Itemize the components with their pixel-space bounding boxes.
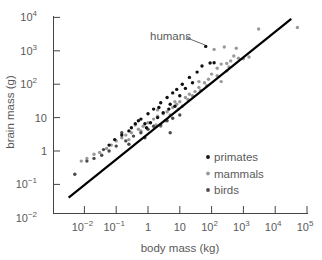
plot-area xyxy=(69,19,299,198)
tick-label: 102 xyxy=(201,219,218,233)
birds-point xyxy=(107,149,110,152)
primates-point xyxy=(181,83,184,86)
birds-point xyxy=(92,157,95,160)
tick-label: 10 xyxy=(174,221,186,233)
primates-point xyxy=(162,111,165,114)
birds-point xyxy=(178,113,181,116)
primates-point xyxy=(173,105,176,108)
primates-point xyxy=(169,103,172,106)
primates-point xyxy=(156,116,159,119)
data-points xyxy=(73,26,299,176)
mammals-point xyxy=(203,81,206,84)
legend-item-birds: birds xyxy=(206,184,239,196)
legend-item-mammals: mammals xyxy=(206,168,264,180)
primates-point xyxy=(184,87,187,90)
tick-label: 10−2 xyxy=(16,210,38,224)
y-axis-title: brain mass (g) xyxy=(4,75,16,149)
mammals-point xyxy=(197,80,200,83)
birds-point xyxy=(127,143,130,146)
primates-point xyxy=(127,129,130,132)
primates-point xyxy=(145,126,148,129)
mammals-point xyxy=(247,55,250,58)
birds-point xyxy=(115,144,118,147)
tick-label: 10 xyxy=(35,112,47,124)
legend-marker xyxy=(206,155,210,159)
primates-point xyxy=(178,94,181,97)
mammals-point xyxy=(235,47,238,50)
mammals-point xyxy=(229,59,232,62)
tick-label: 104 xyxy=(265,219,282,233)
primates-point xyxy=(146,112,149,115)
birds-point xyxy=(73,173,76,176)
tick-label: 10−1 xyxy=(104,219,126,233)
legend: primatesmammalsbirds xyxy=(206,151,264,196)
legend-label: primates xyxy=(214,151,258,163)
mammals-point xyxy=(178,100,181,103)
primates-point xyxy=(167,107,170,110)
primates-point xyxy=(143,122,146,125)
tick-label: 103 xyxy=(20,43,37,57)
x-axis-title: body mass (kg) xyxy=(141,242,220,254)
birds-point xyxy=(124,139,127,142)
primates-point xyxy=(149,121,152,124)
tick-label: 1 xyxy=(41,145,47,157)
mammals-point xyxy=(225,62,228,65)
primates-point xyxy=(159,101,162,104)
birds-point xyxy=(100,154,103,157)
mammals-point xyxy=(212,48,215,51)
birds-point xyxy=(169,131,172,134)
mammals-point xyxy=(197,86,200,89)
tick-label: 104 xyxy=(20,9,37,23)
mammals-point xyxy=(210,72,213,75)
mammals-point xyxy=(223,45,226,48)
mammals-point xyxy=(105,147,108,150)
mammals-point xyxy=(188,93,191,96)
legend-label: birds xyxy=(214,184,239,196)
primates-point xyxy=(157,106,160,109)
birds-point xyxy=(139,131,142,134)
mammals-point xyxy=(173,100,176,103)
primates-point xyxy=(152,107,155,110)
primates-point xyxy=(175,88,178,91)
primates-point xyxy=(171,91,174,94)
tick-label: 10−2 xyxy=(72,219,94,233)
legend-marker xyxy=(206,172,210,176)
x-axis-ticks: 10−210−1110102103104105 xyxy=(72,206,314,233)
primates-point xyxy=(107,143,110,146)
mammals-point xyxy=(80,159,83,162)
mammals-point xyxy=(257,27,260,30)
mammals-point xyxy=(296,26,299,29)
tick-label: 103 xyxy=(233,219,250,233)
primates-point xyxy=(137,119,140,122)
tick-label: 10−1 xyxy=(16,176,38,190)
mammals-point xyxy=(220,80,223,83)
mammals-point xyxy=(207,78,210,81)
primates-point xyxy=(134,122,137,125)
primates-point xyxy=(195,70,198,73)
primates-point xyxy=(212,61,215,64)
brain-body-mass-chart: 10−210−1110102103104 brain mass (g) 10−2… xyxy=(0,0,322,260)
mammals-point xyxy=(220,62,223,65)
primates-point xyxy=(165,96,168,99)
x-axis: 10−210−1110102103104105 body mass (kg) xyxy=(53,206,314,254)
birds-point xyxy=(102,148,105,151)
humans-label: humans xyxy=(150,30,191,42)
primates-point xyxy=(188,76,191,79)
mammals-point xyxy=(232,54,235,57)
mammals-point xyxy=(124,133,127,136)
birds-point xyxy=(171,117,174,120)
mammals-point xyxy=(152,117,155,120)
y-axis: 10−210−1110102103104 brain mass (g) xyxy=(4,9,60,223)
mammals-point xyxy=(127,138,130,141)
primates-point xyxy=(120,133,123,136)
primates-point xyxy=(200,64,203,67)
primates-point xyxy=(191,81,194,84)
humans-annotation: humans xyxy=(150,30,205,45)
birds-point xyxy=(85,159,88,162)
primates-point xyxy=(113,138,116,141)
mammals-point xyxy=(193,90,196,93)
mammals-point xyxy=(216,67,219,70)
mammals-point xyxy=(92,153,95,156)
legend-item-primates: primates xyxy=(206,151,258,163)
legend-marker xyxy=(206,188,210,192)
